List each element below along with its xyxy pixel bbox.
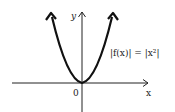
y-axis-label: y: [70, 11, 77, 21]
origin-label: 0: [73, 88, 79, 98]
x-axis-label: x: [146, 88, 151, 98]
curve-left-arrow-icon: [46, 13, 56, 20]
graph: y x 0 |f(x)| = |x²|: [0, 0, 175, 112]
curve-right-arrow-icon: [108, 13, 118, 20]
function-label: |f(x)| = |x²|: [110, 48, 160, 59]
